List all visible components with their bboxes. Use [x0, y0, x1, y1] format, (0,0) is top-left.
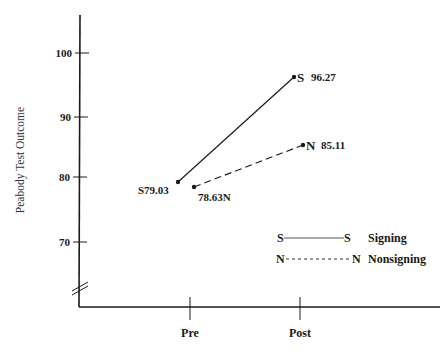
y-tick-80: 80: [59, 171, 71, 183]
x-tick-label-pre: Pre: [181, 326, 199, 340]
y-tick-70: 70: [59, 236, 71, 248]
legend-nonsigning-right: N: [352, 252, 361, 266]
label-signing-post-letter: S: [297, 70, 304, 85]
point-nonsigning-pre: [192, 185, 196, 189]
label-signing-pre: S79.03: [138, 184, 169, 196]
chart: Peabody Test Outcome 100 90 80 70 Pre Po…: [0, 0, 440, 352]
y-axis-title: Peabody Test Outcome: [14, 107, 27, 213]
legend-nonsigning-left: N: [276, 252, 285, 266]
y-axis: [79, 15, 80, 307]
legend-nonsigning-label: Nonsigning: [368, 252, 426, 266]
point-signing-post: [292, 75, 296, 79]
label-signing-post-value: 96.27: [311, 71, 336, 83]
label-nonsigning-post-value: 85.11: [321, 139, 345, 151]
legend-signing-left: S: [277, 231, 284, 245]
series-signing-line: [178, 77, 294, 182]
point-nonsigning-post: [301, 143, 305, 147]
y-ticks: [73, 53, 89, 242]
y-tick-90: 90: [60, 111, 72, 123]
axis-break-icon: [72, 282, 88, 295]
label-nonsigning-post-letter: N: [306, 138, 316, 153]
legend: S S Signing N N Nonsigning: [276, 231, 426, 266]
legend-signing-label: Signing: [368, 231, 407, 245]
x-tick-label-post: Post: [289, 326, 311, 340]
point-signing-pre: [176, 180, 180, 184]
series-nonsigning-line: [194, 145, 303, 187]
label-nonsigning-pre: 78.63N: [198, 191, 231, 203]
legend-signing-right: S: [344, 231, 351, 245]
y-tick-100: 100: [56, 47, 73, 59]
